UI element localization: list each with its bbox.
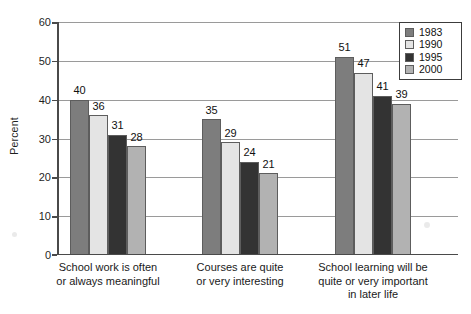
x-axis-line — [57, 254, 458, 256]
legend-label: 2000 — [419, 64, 442, 75]
legend-item-1990: 1990 — [405, 39, 457, 51]
bar-value-1983-school-work: 40 — [73, 84, 85, 96]
category-label-line: School learning will be — [318, 261, 427, 275]
legend-label: 1990 — [419, 39, 442, 50]
legend-swatch-icon — [405, 28, 414, 37]
bar-value-2000-school-learning: 39 — [395, 88, 407, 100]
bar-value-2000-courses: 21 — [262, 158, 274, 170]
legend-swatch-icon — [405, 40, 414, 49]
category-label-line: or always meaningful — [56, 275, 159, 289]
category-label-school-work: School work is often or always meaningfu… — [56, 261, 159, 288]
scan-artifact — [12, 232, 17, 237]
bar-value-1990-courses: 29 — [224, 127, 236, 139]
bar-1995-courses — [240, 162, 259, 255]
scan-artifact-bottom-text — [0, 305, 471, 314]
bar-1995-school-learning — [373, 96, 392, 255]
bar-1995-school-work — [108, 135, 127, 255]
bar-1990-school-learning — [354, 73, 373, 256]
bar-value-1995-school-work: 31 — [111, 119, 123, 131]
y-tick-label-30: 30 — [11, 133, 51, 145]
bar-1990-courses — [221, 142, 240, 255]
y-tick-label-40: 40 — [11, 94, 51, 106]
legend-swatch-icon — [405, 53, 414, 62]
bar-value-1990-school-work: 36 — [92, 100, 104, 112]
category-label-school-learning: School learning will be quite or very im… — [318, 261, 427, 302]
legend-label: 1983 — [419, 27, 442, 38]
bar-2000-courses — [259, 173, 278, 255]
legend: 1983 1990 1995 2000 — [399, 22, 462, 80]
y-tick-label-10: 10 — [11, 210, 51, 222]
scan-artifact — [424, 222, 430, 228]
plot-area: 60 50 40 30 20 10 0 40 36 31 28 35 29 24… — [57, 22, 458, 255]
y-tick-label-20: 20 — [11, 171, 51, 183]
category-label-line: in later life — [318, 288, 427, 302]
bar-value-1983-courses: 35 — [205, 104, 217, 116]
bar-1983-courses — [202, 119, 221, 255]
bar-1983-school-work — [70, 100, 89, 255]
bars-layer: 40 36 31 28 35 29 24 21 51 47 41 39 — [57, 22, 458, 255]
bar-value-1995-school-learning: 41 — [376, 80, 388, 92]
bar-2000-school-work — [127, 146, 146, 255]
y-axis-line — [57, 22, 59, 255]
category-label-line: quite or very important — [318, 275, 427, 289]
legend-item-1995: 1995 — [405, 51, 457, 63]
y-tick-label-50: 50 — [11, 55, 51, 67]
category-label-line: or very interesting — [196, 275, 283, 289]
y-tick-label-0: 0 — [11, 249, 51, 261]
bar-1983-school-learning — [335, 57, 354, 255]
bar-1990-school-work — [89, 115, 108, 255]
category-label-courses: Courses are quite or very interesting — [196, 261, 283, 288]
bar-value-2000-school-work: 28 — [130, 131, 142, 143]
legend-swatch-icon — [405, 65, 414, 74]
category-label-line: School work is often — [56, 261, 159, 275]
bar-value-1983-school-learning: 51 — [338, 41, 350, 53]
category-label-line: Courses are quite — [196, 261, 283, 275]
bar-2000-school-learning — [392, 104, 411, 255]
bar-value-1990-school-learning: 47 — [357, 57, 369, 69]
legend-item-1983: 1983 — [405, 26, 457, 38]
bar-value-1995-courses: 24 — [243, 146, 255, 158]
bar-chart: Percent 60 50 40 30 20 10 0 40 — [0, 0, 471, 314]
legend-label: 1995 — [419, 52, 442, 63]
legend-item-2000: 2000 — [405, 64, 457, 76]
y-tick-label-60: 60 — [11, 16, 51, 28]
